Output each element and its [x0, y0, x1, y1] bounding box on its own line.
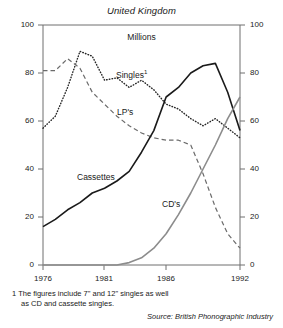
series-label-cassettes: Cassettes — [77, 172, 115, 182]
y-axis-right-label-40: 40 — [250, 164, 274, 173]
footnote-line-2: as CD and cassette singles. — [12, 299, 212, 309]
axis-ticks-right — [240, 25, 245, 265]
chart-figure: United Kingdom Millions — [0, 0, 283, 328]
y-axis-right-label-80: 80 — [250, 68, 274, 77]
chart-source-note: Source: British Phonographic Industry — [147, 312, 273, 321]
series-line-cassettes — [43, 63, 240, 226]
series-layer — [43, 51, 240, 265]
series-label-singles-text: Singles — [116, 70, 144, 80]
y-axis-right-label-100: 100 — [250, 20, 274, 29]
footnote-line-1: The figures include 7" and 12" singles a… — [18, 289, 168, 298]
y-axis-left-label-40: 40 — [10, 164, 34, 173]
y-axis-left-label-80: 80 — [10, 68, 34, 77]
axis-ticks-left — [38, 25, 43, 265]
series-label-singles-footnote-marker: 1 — [144, 69, 147, 75]
footnote-marker: 1 — [12, 289, 16, 298]
x-axis-label-1992: 1992 — [223, 274, 257, 283]
series-label-cds: CD's — [162, 199, 180, 209]
x-axis-label-1981: 1981 — [87, 274, 121, 283]
y-axis-right-label-60: 60 — [250, 116, 274, 125]
series-label-lps: LP's — [117, 107, 133, 117]
y-axis-left-label-60: 60 — [10, 116, 34, 125]
x-axis-label-1986: 1986 — [149, 274, 183, 283]
y-axis-left-label-0: 0 — [10, 260, 34, 269]
axis-lines — [43, 25, 240, 265]
y-axis-left-label-100: 100 — [10, 20, 34, 29]
chart-footnote: 1 The figures include 7" and 12" singles… — [12, 289, 212, 309]
y-axis-right-label-20: 20 — [250, 212, 274, 221]
x-axis-label-1976: 1976 — [26, 274, 60, 283]
y-axis-right-label-0: 0 — [250, 260, 274, 269]
series-label-singles: Singles1 — [116, 69, 147, 80]
y-axis-left-label-20: 20 — [10, 212, 34, 221]
